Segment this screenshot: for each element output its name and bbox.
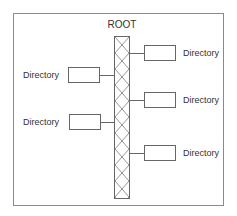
root-column — [114, 36, 130, 199]
right-connector-2 — [130, 100, 144, 101]
left-connector-2 — [101, 122, 114, 123]
right-directory-box-2 — [144, 92, 176, 108]
left-connector-1 — [100, 75, 114, 76]
right-directory-label-2: Directory — [183, 94, 219, 106]
crosshatch-pattern — [115, 37, 129, 198]
left-directory-label-1: Directory — [23, 69, 59, 81]
right-connector-3 — [130, 153, 144, 154]
left-directory-box-2 — [69, 114, 101, 130]
left-directory-box-1 — [68, 67, 100, 83]
root-label: ROOT — [100, 18, 144, 32]
right-directory-box-3 — [144, 145, 176, 161]
left-directory-label-2: Directory — [23, 116, 59, 128]
right-directory-box-1 — [144, 45, 176, 61]
right-directory-label-3: Directory — [183, 147, 219, 159]
right-directory-label-1: Directory — [183, 47, 219, 59]
right-connector-1 — [130, 53, 144, 54]
